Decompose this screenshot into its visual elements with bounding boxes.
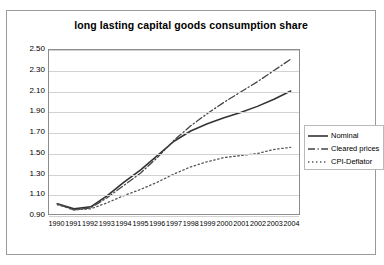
chart-legend: Nominal Cleared prices CPI-Deflator: [304, 125, 384, 170]
series-line: [57, 59, 290, 210]
gridline: [49, 92, 299, 93]
series-line: [57, 91, 290, 209]
y-axis-tick-labels: 2.502.302.101.901.701.501.301.100.90: [7, 11, 45, 256]
gridline: [49, 216, 299, 217]
gridline: [49, 71, 299, 72]
legend-item-nominal: Nominal: [307, 129, 383, 142]
gridline: [49, 50, 299, 51]
y-axis-tick-label: 2.50: [11, 45, 45, 53]
plot-area: [48, 49, 300, 215]
x-axis-tick-label: 2004: [280, 219, 304, 229]
plot-lines: [49, 50, 299, 214]
legend-swatch-dashdot-icon: [307, 144, 329, 154]
x-axis-tick-labels: 1990199119921993199419951996199719981999…: [48, 219, 300, 233]
gridline: [49, 133, 299, 134]
y-axis-tick-label: 0.90: [11, 211, 45, 219]
y-axis-tick-label: 2.10: [11, 87, 45, 95]
series-line: [57, 147, 290, 210]
legend-item-cleared-prices: Cleared prices: [307, 142, 383, 155]
y-axis-tick-label: 2.30: [11, 66, 45, 74]
y-axis-tick-label: 1.70: [11, 128, 45, 136]
chart-title: long lasting capital goods consumption s…: [7, 19, 375, 31]
legend-label: Cleared prices: [331, 144, 379, 153]
legend-label: Nominal: [331, 131, 359, 140]
legend-swatch-dotted-icon: [307, 157, 329, 167]
y-axis-tick-label: 1.50: [11, 149, 45, 157]
gridline: [49, 112, 299, 113]
legend-swatch-solid-icon: [307, 131, 329, 141]
y-axis-tick-label: 1.30: [11, 170, 45, 178]
gridline: [49, 175, 299, 176]
gridline: [49, 154, 299, 155]
legend-item-cpi-deflator: CPI-Deflator: [307, 155, 383, 168]
chart-container: long lasting capital goods consumption s…: [6, 10, 376, 255]
y-axis-tick-label: 1.10: [11, 190, 45, 198]
y-axis-tick-label: 1.90: [11, 107, 45, 115]
gridline: [49, 195, 299, 196]
legend-label: CPI-Deflator: [331, 157, 372, 166]
